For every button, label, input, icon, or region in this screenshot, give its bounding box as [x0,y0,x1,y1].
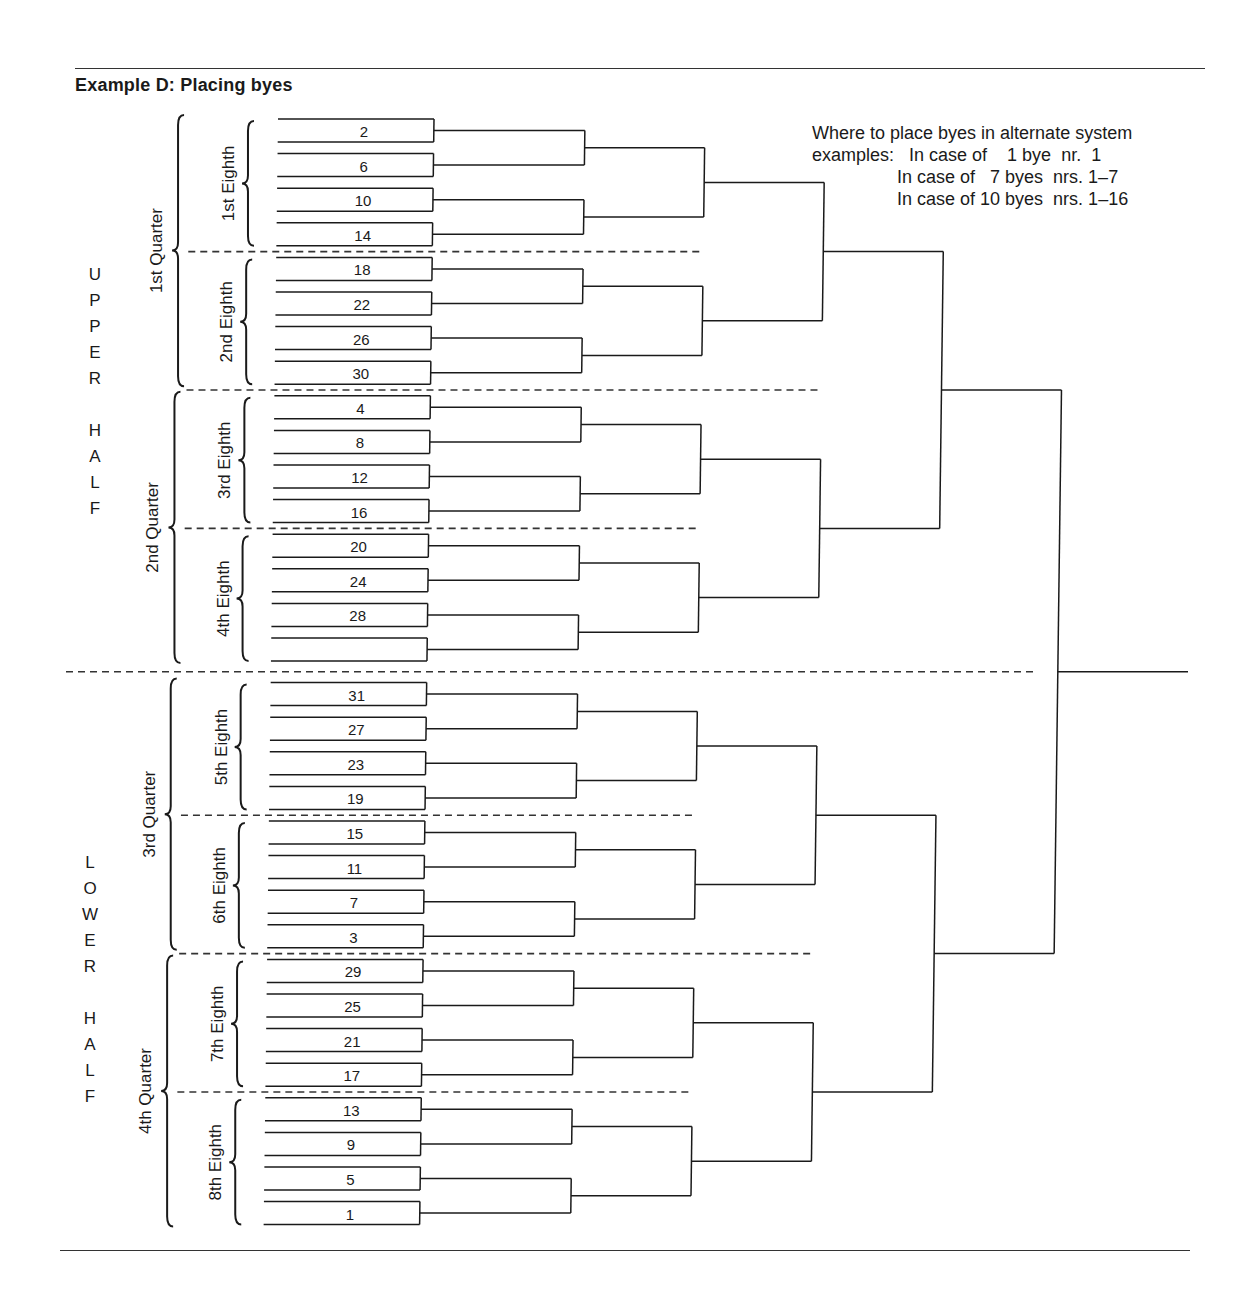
seed-number: 27 [348,721,365,738]
eighth-brace [237,536,249,661]
seed-number: 28 [349,607,366,624]
seed-number: 22 [353,296,370,313]
half-label-letter: L [85,1061,94,1080]
seed-number: 25 [344,998,361,1015]
half-label-letter: U [89,265,101,284]
seed-number: 30 [353,365,370,382]
tournament-bracket: 2610141822263048121620242831272319151173… [0,0,1256,1312]
eighth-brace [233,823,245,948]
eighth-brace [238,398,250,523]
eighth-label: 6th Eighth [210,847,229,924]
half-label-letter: F [85,1087,95,1106]
quarter-brace [168,392,180,663]
eighth-brace [242,121,254,246]
seed-number: 6 [359,158,367,175]
half-label-letter: W [82,905,98,924]
seed-number: 26 [353,331,370,348]
half-label-letter: P [89,317,100,336]
half-label-letter: L [90,473,99,492]
half-label-letter: P [89,291,100,310]
seed-number: 13 [343,1102,360,1119]
quarter-label: 3rd Quarter [140,770,159,857]
half-label-letter: L [85,853,94,872]
seed-number: 17 [343,1067,360,1084]
eighth-brace [235,685,247,810]
eighth-label: 7th Eighth [208,986,227,1063]
eighth-brace [229,1100,241,1225]
half-label-letter: R [89,369,101,388]
seed-number: 16 [351,504,368,521]
seed-number: 29 [345,963,362,980]
seed-number: 14 [354,227,371,244]
quarter-brace [165,679,177,950]
seed-number: 21 [344,1033,361,1050]
quarter-brace [161,955,173,1226]
eighth-label: 2nd Eighth [217,281,236,362]
seed-number: 4 [356,400,364,417]
seed-number: 18 [354,261,371,278]
eighth-brace [240,259,252,384]
seed-number: 2 [360,123,368,140]
eighth-label: 1st Eighth [219,146,238,222]
seed-number: 7 [350,894,358,911]
seed-number: 24 [350,573,367,590]
eighth-label: 3rd Eighth [215,421,234,499]
quarter-label: 1st Quarter [147,208,166,293]
seed-number: 1 [346,1206,354,1223]
seed-number: 31 [348,687,365,704]
seed-number: 15 [347,825,364,842]
seed-number: 23 [347,756,364,773]
seed-number: 3 [349,929,357,946]
half-label-letter: F [90,499,100,518]
half-label-letter: H [89,421,101,440]
seed-number: 5 [346,1171,354,1188]
seed-number: 8 [356,434,364,451]
half-label-letter: A [84,1035,96,1054]
eighth-label: 5th Eighth [212,709,231,786]
half-label-letter: O [83,879,96,898]
seed-number: 9 [347,1136,355,1153]
eighth-label: 8th Eighth [206,1124,225,1201]
eighth-brace [231,961,243,1086]
half-label-letter: E [84,931,95,950]
seed-number: 19 [347,790,364,807]
half-label-letter: H [84,1009,96,1028]
seed-number: 11 [347,860,363,877]
quarter-label: 4th Quarter [136,1048,155,1134]
seed-number: 10 [355,192,372,209]
half-label-letter: R [84,957,96,976]
eighth-label: 4th Eighth [214,560,233,637]
half-label-letter: E [89,343,100,362]
seed-number: 20 [350,538,367,555]
seed-number: 12 [351,469,368,486]
half-label-letter: A [89,447,101,466]
quarter-label: 2nd Quarter [143,482,162,573]
quarter-brace [172,115,184,386]
